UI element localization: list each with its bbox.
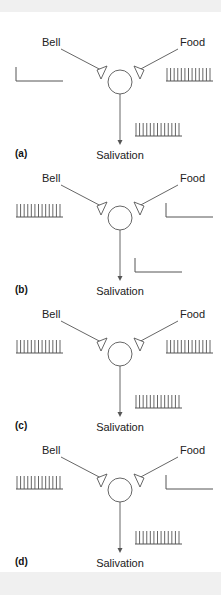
- bell-synapse-terminal: [97, 338, 107, 351]
- bell-activity-trace: [16, 67, 63, 81]
- bell-activity-trace: [16, 340, 63, 353]
- panel-label: (c): [15, 420, 27, 431]
- salivation-label: Salivation: [96, 285, 144, 297]
- bell-axon: [61, 49, 103, 71]
- food-activity-trace: [166, 203, 213, 217]
- bell-axon: [61, 185, 103, 207]
- food-label: Food: [180, 444, 205, 456]
- bell-label: Bell: [42, 308, 60, 320]
- food-label: Food: [180, 36, 205, 48]
- salivation-label: Salivation: [96, 557, 144, 569]
- bell-synapse-terminal: [97, 202, 107, 215]
- panel-d: BellFoodSalivation(d): [15, 444, 213, 569]
- top-margin: [0, 0, 221, 12]
- bell-synapse-terminal: [97, 66, 107, 79]
- food-axon: [137, 457, 178, 479]
- panel-c: BellFoodSalivation(c): [15, 308, 213, 433]
- bell-activity-trace: [16, 476, 63, 489]
- panel-label: (b): [15, 284, 28, 295]
- food-label: Food: [180, 172, 205, 184]
- arrow-head-icon: [118, 548, 123, 553]
- food-axon: [137, 185, 178, 207]
- neuron-cell-body: [108, 206, 132, 230]
- bell-activity-trace: [16, 204, 63, 217]
- salivation-label: Salivation: [96, 421, 144, 433]
- arrow-head-icon: [118, 412, 123, 417]
- bell-label: Bell: [42, 36, 60, 48]
- salivation-label: Salivation: [96, 149, 144, 161]
- figure-canvas: BellFoodSalivation(a)BellFoodSalivation(…: [0, 0, 221, 595]
- bell-axon: [61, 457, 103, 479]
- panel-label: (a): [15, 148, 27, 159]
- food-activity-trace: [166, 340, 213, 353]
- arrow-head-icon: [118, 276, 123, 281]
- panel-label: (d): [15, 556, 28, 567]
- salivation-activity-trace: [135, 395, 182, 408]
- salivation-activity-trace: [135, 531, 182, 544]
- food-activity-trace: [166, 68, 213, 81]
- bell-label: Bell: [42, 444, 60, 456]
- food-activity-trace: [166, 475, 213, 489]
- neuron-cell-body: [108, 70, 132, 94]
- food-axon: [137, 49, 178, 71]
- bell-label: Bell: [42, 172, 60, 184]
- arrow-head-icon: [118, 140, 123, 145]
- neuron-cell-body: [108, 342, 132, 366]
- conditioning-diagram: BellFoodSalivation(a)BellFoodSalivation(…: [0, 0, 221, 595]
- salivation-activity-trace: [135, 123, 182, 136]
- bell-synapse-terminal: [97, 474, 107, 487]
- neuron-cell-body: [108, 478, 132, 502]
- salivation-activity-trace: [135, 258, 182, 272]
- panel-b: BellFoodSalivation(b): [15, 172, 213, 297]
- bell-axon: [61, 321, 103, 343]
- bottom-margin: [0, 572, 221, 595]
- panel-a: BellFoodSalivation(a): [15, 36, 213, 161]
- food-label: Food: [180, 308, 205, 320]
- food-axon: [137, 321, 178, 343]
